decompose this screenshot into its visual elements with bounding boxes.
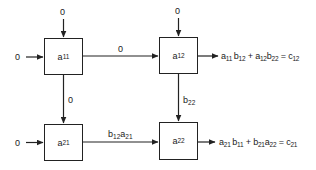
edge-a11-a21-label: 0: [68, 95, 73, 105]
cell-a12: a12: [159, 37, 198, 74]
cell-a22: a22: [159, 122, 198, 160]
cell-a11: a11: [44, 38, 83, 75]
cell-a11-base: a: [58, 52, 63, 62]
edge-a21-a22-label: b12a21: [108, 129, 133, 139]
cell-a21: a21: [44, 124, 83, 161]
output-equation-c21: a21 b11 + b21a22 = c21: [219, 137, 297, 147]
output-equation-c12: a11 b12 + a12b22 = c12: [221, 51, 299, 61]
input-top-a12-label: 0: [175, 6, 180, 16]
edge-a12-a22-label: b22: [183, 95, 195, 105]
input-left-a21-label: 0: [15, 138, 20, 148]
input-top-a11-label: 0: [60, 7, 65, 17]
input-left-a11-label: 0: [15, 52, 20, 62]
edge-a11-a12-label: 0: [118, 44, 123, 54]
